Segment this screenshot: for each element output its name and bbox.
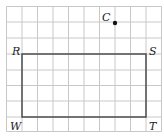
grid-lines	[7, 7, 162, 132]
label-c: C	[102, 11, 111, 24]
label-r: R	[11, 45, 20, 58]
label-w: W	[10, 120, 23, 133]
point-c	[113, 21, 117, 25]
grid-diagram: C R S T W	[0, 0, 164, 140]
label-s: S	[149, 45, 157, 58]
